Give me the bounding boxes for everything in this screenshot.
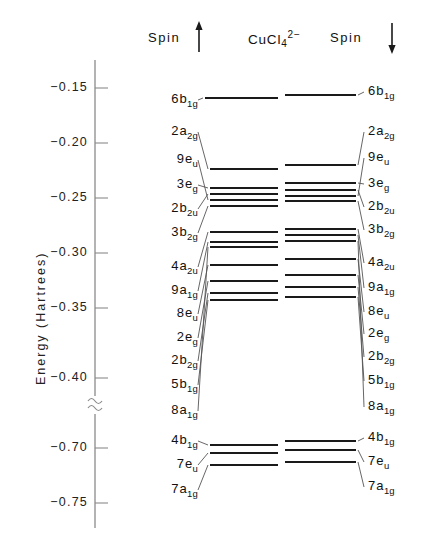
orbital-label-7eu: 7eu: [368, 453, 389, 471]
orbital-label-3eg: 3eg: [132, 176, 198, 194]
orbital-label-8a1g: 8a1g: [132, 402, 198, 420]
leader-line: [198, 206, 208, 233]
level-lines: [205, 95, 356, 465]
orbital-label-4b1g: 4b1g: [368, 429, 395, 447]
orbital-label-2b2g: 2b2g: [368, 348, 395, 366]
orbital-label-7a1g: 7a1g: [368, 478, 395, 496]
orbital-label-2eg: 2eg: [368, 325, 389, 343]
orbital-label-8eu: 8eu: [368, 303, 389, 321]
leader-line: [198, 465, 208, 490]
y-axis: [88, 60, 108, 528]
leader-line: [358, 158, 364, 196]
leader-line: [198, 132, 208, 169]
orbital-label-2a2g: 2a2g: [368, 123, 395, 141]
orbital-label-7a1g: 7a1g: [132, 481, 198, 499]
orbital-label-2eg: 2eg: [132, 329, 198, 347]
y-axis-tick-label: −0.40: [18, 370, 88, 384]
leader-line: [198, 185, 208, 188]
leader-line: [198, 98, 203, 100]
spin-down-arrow-icon: [388, 23, 395, 54]
orbital-label-4a2u: 4a2u: [368, 254, 395, 272]
orbital-label-9a1g: 9a1g: [368, 279, 395, 297]
leader-lines: [198, 92, 364, 490]
orbital-label-7eu: 7eu: [132, 456, 198, 474]
y-axis-tick-label: −0.75: [18, 495, 88, 509]
axis-break-icon: [88, 406, 102, 411]
leader-line: [198, 194, 208, 209]
orbital-label-8a1g: 8a1g: [368, 398, 395, 416]
y-axis-tick-label: −0.20: [18, 135, 88, 149]
y-axis-tick-label: −0.30: [18, 245, 88, 259]
leader-line: [198, 453, 208, 465]
energy-level-diagram: Spin CuCl42− Spin Energy (Hartrees) −0.1…: [0, 0, 438, 544]
leader-line: [358, 132, 364, 165]
orbital-label-4b1g: 4b1g: [132, 432, 198, 450]
orbital-label-3b2g: 3b2g: [132, 224, 198, 242]
orbital-label-6b1g: 6b1g: [368, 83, 395, 101]
y-axis-tick-label: −0.35: [18, 300, 88, 314]
spin-up-arrow-icon: [195, 21, 202, 52]
leader-line: [358, 462, 364, 487]
orbital-label-5b1g: 5b1g: [132, 376, 198, 394]
orbital-label-9eu: 9eu: [368, 149, 389, 167]
leader-line: [358, 297, 364, 381]
orbital-label-2b2u: 2b2u: [132, 200, 198, 218]
orbital-label-2b2u: 2b2u: [368, 198, 395, 216]
orbital-label-9eu: 9eu: [132, 151, 198, 169]
orbital-label-9a1g: 9a1g: [132, 282, 198, 300]
orbital-label-3eg: 3eg: [368, 175, 389, 193]
orbital-label-2b2g: 2b2g: [132, 352, 198, 370]
leader-line: [358, 438, 364, 441]
orbital-label-6b1g: 6b1g: [132, 91, 198, 109]
orbital-label-8eu: 8eu: [132, 305, 198, 323]
leader-line: [198, 160, 208, 200]
y-axis-tick-label: −0.70: [18, 440, 88, 454]
leader-line: [358, 92, 364, 95]
axis-break-icon: [88, 399, 102, 404]
orbital-label-2a2g: 2a2g: [132, 123, 198, 141]
orbital-label-3b2g: 3b2g: [368, 221, 395, 239]
orbital-label-4a2u: 4a2u: [132, 258, 198, 276]
y-axis-tick-label: −0.15: [18, 80, 88, 94]
leader-line: [198, 300, 208, 385]
y-axis-tick-label: −0.25: [18, 190, 88, 204]
orbital-label-5b1g: 5b1g: [368, 372, 395, 390]
leader-line: [358, 450, 364, 462]
leader-line: [358, 183, 364, 184]
leader-line: [198, 441, 208, 445]
